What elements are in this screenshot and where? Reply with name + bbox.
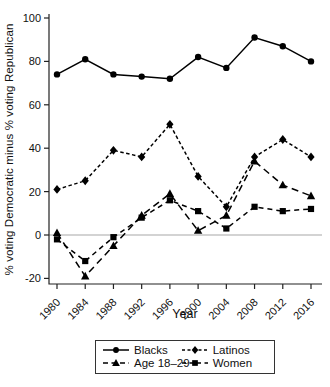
- marker-circle-icon: [308, 58, 314, 64]
- marker-circle-icon: [82, 56, 88, 62]
- series-line-blacks: [57, 38, 311, 79]
- marker-square-icon: [110, 234, 116, 240]
- marker-triangle-icon: [166, 189, 174, 197]
- line-chart-plot: -200204060801001980198419881992199620002…: [0, 0, 330, 336]
- marker-square-icon: [82, 258, 88, 264]
- marker-diamond-icon: [191, 346, 198, 354]
- marker-square-icon: [167, 197, 173, 203]
- marker-diamond-icon: [307, 152, 314, 161]
- legend-sample-age-18-29: [103, 357, 129, 369]
- marker-square-icon: [192, 360, 198, 366]
- marker-circle-icon: [110, 71, 116, 77]
- y-tick-label: 20: [29, 186, 41, 198]
- marker-circle-icon: [113, 347, 119, 353]
- y-axis-label: % voting Democratic minus % voting Repub…: [3, 10, 18, 290]
- series-women: [54, 197, 314, 264]
- legend-item-women: Women: [182, 357, 267, 369]
- series-latinos: [53, 120, 314, 211]
- series-line-age-18-29: [57, 161, 311, 276]
- axes: [49, 14, 322, 284]
- y-tick-label: 60: [29, 99, 41, 111]
- figure: -200204060801001980198419881992199620002…: [0, 0, 330, 387]
- marker-triangle-icon: [279, 181, 287, 189]
- marker-circle-icon: [223, 65, 229, 71]
- legend-item-blacks: Blacks: [103, 344, 182, 356]
- series-blacks: [54, 34, 314, 82]
- marker-square-icon: [308, 206, 314, 212]
- marker-circle-icon: [54, 71, 60, 77]
- chart-legend: BlacksLatinosAge 18–29Women: [95, 340, 275, 374]
- marker-circle-icon: [280, 43, 286, 49]
- x-axis-label: Year: [49, 307, 321, 321]
- marker-diamond-icon: [53, 185, 60, 194]
- legend-label-women: Women: [213, 357, 252, 369]
- legend-sample-women: [182, 357, 208, 369]
- marker-circle-icon: [167, 76, 173, 82]
- marker-square-icon: [223, 225, 229, 231]
- y-tick-label: 0: [35, 229, 41, 241]
- marker-square-icon: [280, 208, 286, 214]
- legend-item-latinos: Latinos: [182, 344, 267, 356]
- legend-label-latinos: Latinos: [213, 344, 250, 356]
- y-tick-label: 100: [23, 12, 41, 24]
- y-tick-label: 40: [29, 142, 41, 154]
- marker-triangle-icon: [53, 228, 61, 236]
- marker-diamond-icon: [279, 135, 286, 144]
- marker-circle-icon: [251, 34, 257, 40]
- legend-sample-latinos: [182, 344, 208, 356]
- marker-circle-icon: [138, 73, 144, 79]
- series-age-18-29: [53, 157, 315, 280]
- marker-triangle-icon: [222, 211, 230, 219]
- y-tick-label: -20: [25, 272, 41, 284]
- series-line-women: [57, 200, 311, 261]
- marker-square-icon: [195, 208, 201, 214]
- y-tick-label: 80: [29, 55, 41, 67]
- legend-sample-blacks: [103, 344, 129, 356]
- series-line-latinos: [57, 124, 311, 206]
- marker-square-icon: [251, 204, 257, 210]
- legend-label-blacks: Blacks: [134, 344, 168, 356]
- marker-circle-icon: [195, 54, 201, 60]
- legend-item-age-18-29: Age 18–29: [103, 357, 182, 369]
